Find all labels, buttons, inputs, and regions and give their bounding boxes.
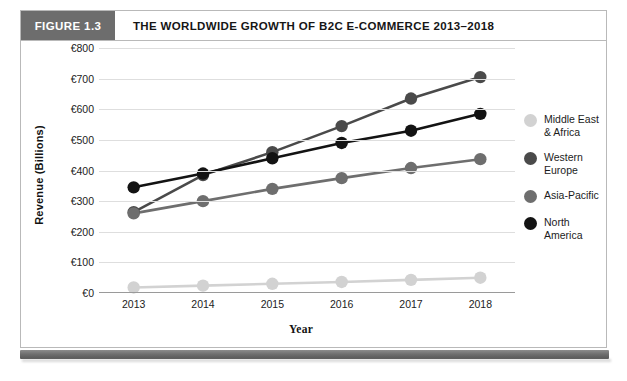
- legend-marker-icon: [524, 190, 537, 203]
- gridline: [99, 171, 515, 172]
- y-axis-tick-label: €300: [34, 195, 94, 207]
- series-data-point: [266, 278, 278, 290]
- series-line: [134, 77, 481, 212]
- series-data-point: [335, 120, 347, 132]
- series-data-point: [474, 153, 486, 165]
- y-axis-tick-label: €200: [34, 226, 94, 238]
- series-data-point: [405, 274, 417, 286]
- series-data-point: [197, 279, 209, 291]
- series-data-point: [197, 167, 209, 179]
- legend-item[interactable]: Western Europe: [524, 151, 606, 176]
- y-axis-tick-label: €400: [34, 165, 94, 177]
- y-axis-tick-label: €600: [34, 103, 94, 115]
- y-axis-tick-label: €100: [34, 256, 94, 268]
- series-data-point: [405, 124, 417, 136]
- series-data-point: [335, 172, 347, 184]
- figure-bottom-shadow: [22, 359, 611, 362]
- legend-label: North America: [544, 216, 606, 241]
- legend-item[interactable]: North America: [524, 216, 606, 241]
- gridline: [99, 140, 515, 141]
- legend-marker-icon: [524, 152, 537, 165]
- y-axis-tick-label: €800: [34, 42, 94, 54]
- gridline: [99, 79, 515, 80]
- series-data-point: [266, 152, 278, 164]
- gridline: [99, 262, 515, 263]
- legend-item[interactable]: Asia-Pacific: [524, 189, 606, 203]
- series-data-point: [405, 162, 417, 174]
- y-axis-tick-label: €700: [34, 73, 94, 85]
- plot-wrapper: Revenue (Billions) €0€100€200€300€400€50…: [21, 41, 606, 348]
- figure-frame: FIGURE 1.3 THE WORLDWIDE GROWTH OF B2C E…: [20, 10, 607, 348]
- series-data-point: [474, 71, 486, 83]
- x-axis-tick-label: 2017: [381, 298, 441, 310]
- gridline: [99, 48, 515, 49]
- gridline: [99, 201, 515, 202]
- x-axis-tick-label: 2018: [450, 298, 510, 310]
- series-data-point: [127, 207, 139, 219]
- series-data-point: [335, 137, 347, 149]
- legend-label: Middle East & Africa: [544, 113, 599, 138]
- series-data-point: [127, 181, 139, 193]
- figure-bottom-bar: [20, 350, 609, 359]
- gridline: [99, 109, 515, 110]
- legend-marker-icon: [524, 114, 537, 127]
- chart-plot-area: €0€100€200€300€400€500€600€700€800201320…: [99, 48, 515, 293]
- series-line: [134, 114, 481, 188]
- legend-marker-icon: [524, 217, 537, 230]
- series-line: [134, 278, 481, 288]
- x-axis-tick-label: 2015: [242, 298, 302, 310]
- y-axis-tick-label: €500: [34, 134, 94, 146]
- x-axis-tick-label: 2016: [312, 298, 372, 310]
- legend-item[interactable]: Middle East & Africa: [524, 113, 606, 138]
- figure-number-badge: FIGURE 1.3: [21, 11, 115, 40]
- series-data-point: [335, 276, 347, 288]
- figure-number-label: FIGURE 1.3: [35, 20, 102, 32]
- figure-header: FIGURE 1.3 THE WORLDWIDE GROWTH OF B2C E…: [21, 11, 606, 41]
- series-data-point: [266, 183, 278, 195]
- legend-label: Asia-Pacific: [544, 189, 599, 202]
- figure-title: THE WORLDWIDE GROWTH OF B2C E-COMMERCE 2…: [133, 11, 494, 40]
- series-data-point: [474, 271, 486, 283]
- x-axis-title: Year: [101, 323, 501, 335]
- y-axis-tick-label: €0: [34, 287, 94, 299]
- chart-legend: Middle East & AfricaWestern EuropeAsia-P…: [524, 113, 606, 254]
- x-axis-tick-label: 2013: [104, 298, 164, 310]
- x-axis-line: [99, 292, 515, 293]
- series-data-point: [405, 92, 417, 104]
- figure-page: FIGURE 1.3 THE WORLDWIDE GROWTH OF B2C E…: [0, 0, 627, 381]
- x-axis-tick-label: 2014: [173, 298, 233, 310]
- series-line: [134, 159, 481, 213]
- legend-label: Western Europe: [544, 151, 583, 176]
- gridline: [99, 232, 515, 233]
